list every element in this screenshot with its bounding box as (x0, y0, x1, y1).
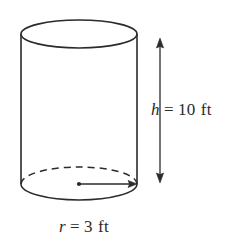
height-arrowhead-up-icon (156, 38, 163, 48)
cylinder-bottom-hidden-arc (21, 167, 137, 184)
cylinder-top-ellipse (21, 20, 137, 48)
radius-unit: ft (98, 217, 109, 236)
radius-variable: r (59, 217, 66, 236)
height-label: h=10ft (151, 101, 212, 118)
radius-label: r=3ft (59, 218, 109, 235)
height-arrowhead-down-icon (156, 173, 163, 183)
height-variable: h (151, 100, 160, 119)
radius-equals: = (70, 217, 80, 236)
height-equals: = (164, 100, 174, 119)
height-value: 10 (178, 100, 196, 119)
cylinder-bottom-front-arc (21, 184, 137, 200)
height-unit: ft (201, 100, 212, 119)
cylinder-figure: h=10ft r=3ft (0, 0, 234, 250)
radius-value: 3 (84, 217, 93, 236)
cylinder-drawing (0, 0, 234, 250)
